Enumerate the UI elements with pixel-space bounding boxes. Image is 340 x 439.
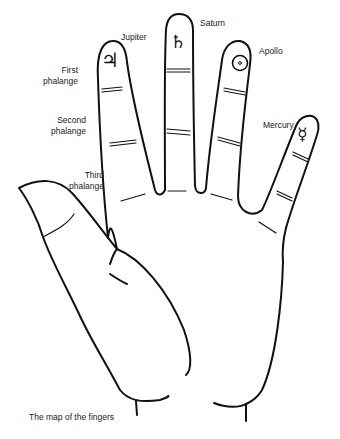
thumb-base [110,249,190,375]
diagram-caption: The map of the fingers [29,412,114,423]
label-first-phalange: First phalange [40,65,78,87]
label-mercury: Mercury [263,120,294,131]
palm-right-edge [246,228,286,421]
mercury-symbol-icon: ☿ [297,126,307,143]
label-apollo: Apollo [259,46,283,57]
wrist-right [214,403,248,407]
thumb-outline [19,181,169,401]
hand-diagram: ♃ ♄ ☿ Jupiter Saturn Apollo Mercury Firs… [0,0,340,439]
jupiter-symbol-icon: ♃ [101,50,119,70]
label-jupiter: Jupiter [121,32,147,43]
label-third-phalange: Third phalange [64,170,104,192]
label-second-phalange: Second phalange [46,115,86,137]
label-saturn: Saturn [200,18,225,29]
saturn-symbol-icon: ♄ [170,33,186,51]
thumb-webbing [110,274,127,284]
sun-symbol-icon [228,52,252,76]
thumb-crease [43,214,74,237]
